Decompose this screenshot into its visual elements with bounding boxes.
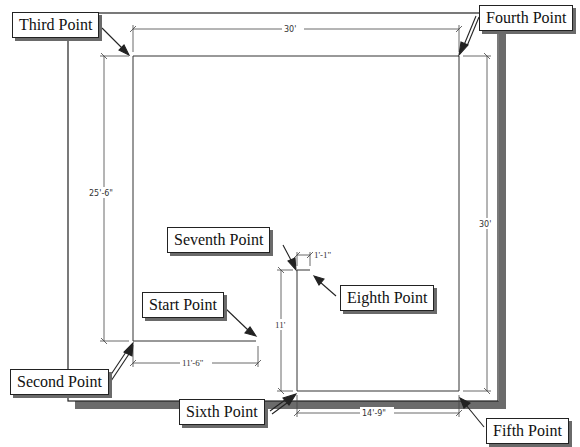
callout-seventh-point: Seventh Point: [167, 227, 270, 253]
callout-third-point: Third Point: [12, 12, 99, 38]
callout-start-point: Start Point: [142, 292, 224, 318]
callout-fifth-point: Fifth Point: [486, 418, 569, 444]
diagram-canvas: 30' 25'-6" 30' 11'-6" 11' 14'-9" 1'-1": [0, 0, 580, 447]
dim-bottom-right-width: 14'-9": [362, 409, 386, 418]
clipped-header-text: [0, 0, 580, 3]
dim-left-height: 25'-6": [89, 189, 113, 198]
dim-notch-height: 11': [275, 320, 286, 330]
dim-notch-width: 1'-1": [314, 250, 332, 260]
callout-eighth-point: Eighth Point: [340, 285, 434, 311]
callout-fourth-point: Fourth Point: [479, 5, 573, 31]
dim-right-height: 30': [479, 220, 491, 229]
callout-second-point: Second Point: [10, 369, 109, 395]
sheet-shadow-right: [499, 28, 506, 408]
dim-top-width: 30': [284, 25, 296, 34]
dim-bottom-left-width: 11'-6": [182, 358, 204, 368]
callout-sixth-point: Sixth Point: [179, 399, 265, 425]
